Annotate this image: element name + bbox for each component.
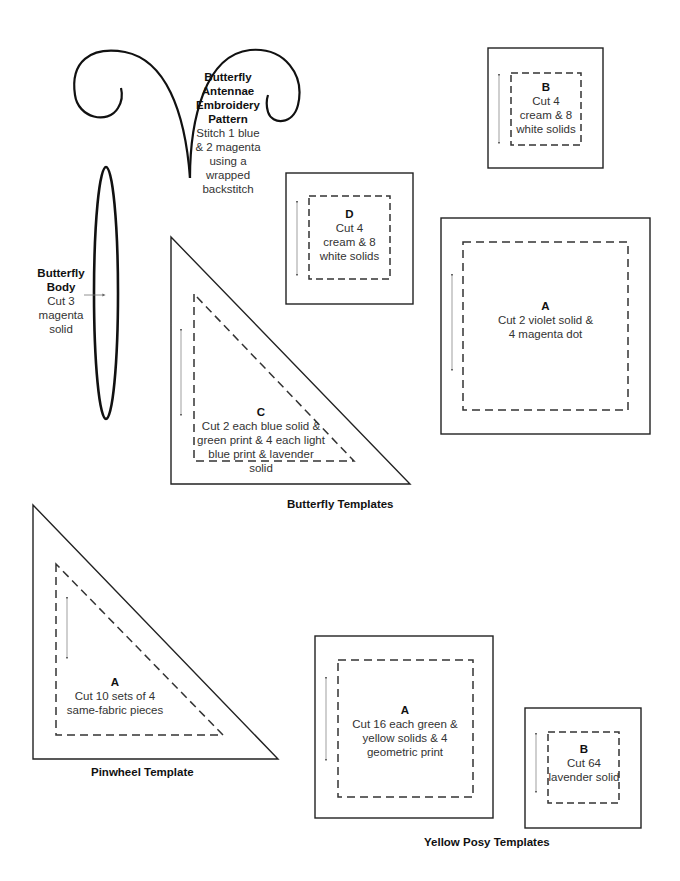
label-line: Cut 4 bbox=[511, 94, 581, 108]
antennae-title-4: Pattern bbox=[190, 112, 266, 126]
antennae-instr-1: Stitch 1 blue bbox=[190, 126, 266, 140]
butterfly-templates-caption: Butterfly Templates bbox=[287, 498, 394, 510]
template-letter: D bbox=[309, 207, 390, 221]
pinwheel-triangle bbox=[33, 505, 278, 759]
template-letter: B bbox=[511, 80, 581, 94]
antennae-title-3: Embroidery bbox=[190, 98, 266, 112]
body-instr-1: Cut 3 bbox=[34, 294, 88, 308]
template-letter: A bbox=[463, 299, 628, 313]
antennae-title-1: Butterfly bbox=[190, 70, 266, 84]
yellow-posy-templates-caption: Yellow Posy Templates bbox=[424, 836, 550, 848]
body-label: Butterfly Body Cut 3 magenta solid bbox=[34, 266, 88, 336]
template-b-butterfly-label: B Cut 4 cream & 8 white solids bbox=[511, 80, 581, 136]
template-letter: A bbox=[345, 703, 465, 717]
template-a-butterfly-label: A Cut 2 violet solid & 4 magenta dot bbox=[463, 299, 628, 341]
label-line: yellow solids & 4 bbox=[345, 731, 465, 745]
body-instr-2: magenta bbox=[34, 308, 88, 322]
antennae-label: Butterfly Antennae Embroidery Pattern St… bbox=[190, 70, 266, 196]
label-line: geometric print bbox=[345, 745, 465, 759]
pinwheel-a-label: A Cut 10 sets of 4 same-fabric pieces bbox=[60, 675, 170, 717]
antennae-instr-2: & 2 magenta bbox=[190, 140, 266, 154]
label-line: Cut 10 sets of 4 bbox=[60, 689, 170, 703]
template-letter: C bbox=[196, 405, 326, 419]
yellow-posy-b-label: B Cut 64 lavender solid bbox=[548, 742, 620, 784]
label-line: white solids bbox=[511, 122, 581, 136]
template-letter: A bbox=[60, 675, 170, 689]
pinwheel-template-caption: Pinwheel Template bbox=[91, 766, 194, 778]
antennae-instr-4: wrapped bbox=[190, 168, 266, 182]
label-line: Cut 4 bbox=[309, 221, 390, 235]
label-line: Cut 16 each green & bbox=[345, 717, 465, 731]
label-line: blue print & lavender solid bbox=[196, 447, 326, 475]
antennae-title-2: Antennae bbox=[190, 84, 266, 98]
yellow-posy-a-label: A Cut 16 each green & yellow solids & 4 … bbox=[345, 703, 465, 759]
label-line: 4 magenta dot bbox=[463, 327, 628, 341]
label-line: cream & 8 bbox=[309, 235, 390, 249]
label-line: lavender solid bbox=[548, 770, 620, 784]
template-c-label: C Cut 2 each blue solid & green print & … bbox=[196, 405, 326, 475]
antennae-instr-5: backstitch bbox=[190, 182, 266, 196]
body-title-1: Butterfly bbox=[34, 266, 88, 280]
body-title-2: Body bbox=[34, 280, 88, 294]
body-instr-3: solid bbox=[34, 322, 88, 336]
label-line: same-fabric pieces bbox=[60, 703, 170, 717]
butterfly-body-shape bbox=[84, 167, 118, 419]
antennae-instr-3: using a bbox=[190, 154, 266, 168]
label-line: white solids bbox=[309, 249, 390, 263]
template-d-label: D Cut 4 cream & 8 white solids bbox=[309, 207, 390, 263]
label-line: Cut 2 each blue solid & bbox=[196, 419, 326, 433]
label-line: Cut 2 violet solid & bbox=[463, 313, 628, 327]
template-letter: B bbox=[548, 742, 620, 756]
label-line: green print & 4 each light bbox=[196, 433, 326, 447]
label-line: Cut 64 bbox=[548, 756, 620, 770]
label-line: cream & 8 bbox=[511, 108, 581, 122]
